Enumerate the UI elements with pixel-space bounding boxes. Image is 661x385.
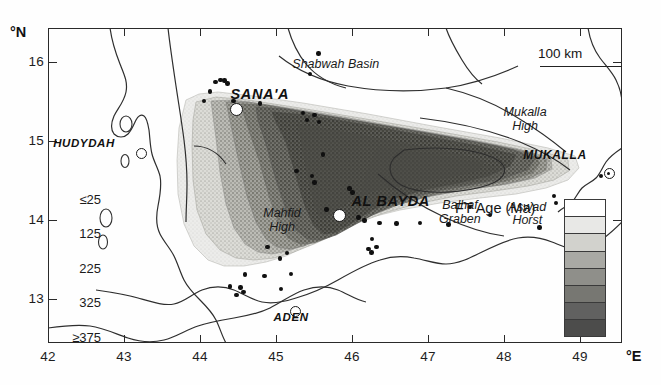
- y-tick-right-14: [613, 220, 622, 221]
- sample-point: [321, 152, 325, 156]
- feature-label-line: Shabwah Basin: [281, 58, 391, 71]
- x-tick-49: [580, 28, 581, 36]
- sample-point: [312, 180, 316, 184]
- scale-bar-label: 100 km: [538, 46, 582, 61]
- sample-point: [238, 285, 242, 289]
- x-tick-43: [124, 28, 125, 36]
- x-tick-44: [200, 28, 201, 36]
- map-frame: [48, 28, 622, 343]
- x-tick-46: [352, 28, 353, 36]
- y-tick-label-13: 13: [4, 291, 44, 306]
- sample-point: [213, 80, 217, 84]
- sample-point: [377, 221, 381, 225]
- sample-point: [552, 194, 556, 198]
- legend-tick-2: 225: [51, 261, 101, 276]
- x-tick-label-49: 49: [559, 349, 601, 364]
- x-tick-bot-42: [48, 335, 49, 343]
- figure-canvas: 16 15 14 13 42 43 44 45 46 47 48 49 °N °…: [0, 0, 661, 385]
- legend-swatch-4: [564, 268, 606, 285]
- x-tick-bot-43: [124, 335, 125, 343]
- city-label-sana-a: SANA'A: [231, 86, 290, 102]
- feature-label-line: High: [227, 221, 337, 234]
- x-axis-unit-label: °E: [626, 348, 641, 364]
- y-tick-label-15: 15: [4, 133, 44, 148]
- sample-point: [316, 51, 320, 55]
- legend-swatches: [564, 199, 606, 337]
- y-tick-right-16: [613, 62, 622, 63]
- city-label-mukalla: MUKALLA: [523, 148, 587, 162]
- x-tick-47: [428, 28, 429, 36]
- sample-point: [265, 245, 269, 249]
- legend-swatch-0: [564, 199, 606, 216]
- y-tick-14: [48, 220, 57, 221]
- legend-tick-4: ≥375: [51, 330, 101, 345]
- legend-tick-0: ≤25: [51, 192, 101, 207]
- feature-label-mukalla-high: MukallaHigh: [470, 106, 580, 133]
- sample-point: [356, 215, 360, 219]
- sample-point: [369, 250, 373, 254]
- sample-point: [208, 89, 212, 93]
- x-tick-label-46: 46: [331, 349, 373, 364]
- sample-point: [362, 218, 366, 222]
- feature-label-line: Mahfid: [227, 207, 337, 220]
- x-tick-bot-48: [504, 335, 505, 343]
- sample-point: [294, 169, 298, 173]
- legend-title: FT Age (Ma): [455, 200, 555, 216]
- sample-point: [374, 245, 378, 249]
- feature-label-shabwah-basin: Shabwah Basin: [281, 58, 391, 71]
- feature-label-line: Mukalla: [470, 106, 580, 119]
- legend-swatch-1: [564, 216, 606, 233]
- x-tick-label-44: 44: [179, 349, 221, 364]
- x-tick-label-42: 42: [27, 349, 69, 364]
- y-tick-label-16: 16: [4, 54, 44, 69]
- legend-swatch-5: [564, 285, 606, 302]
- legend-swatch-3: [564, 251, 606, 268]
- legend-tick-3: 325: [51, 295, 101, 310]
- sample-point: [599, 174, 603, 178]
- x-tick-bot-44: [200, 335, 201, 343]
- y-tick-label-14: 14: [4, 212, 44, 227]
- sample-point: [394, 221, 398, 225]
- feature-label-mahfid-high: MahfidHigh: [227, 207, 337, 234]
- x-tick-label-45: 45: [255, 349, 297, 364]
- x-tick-45: [276, 28, 277, 36]
- scale-bar-line: [540, 66, 622, 67]
- city-marker-mukalla[interactable]: [604, 168, 615, 179]
- city-label-aden: ADEN: [274, 311, 309, 323]
- legend-swatch-7: [564, 319, 606, 336]
- x-tick-bot-47: [428, 335, 429, 343]
- y-axis-unit-label: °N: [10, 24, 26, 40]
- sample-point: [278, 256, 282, 260]
- city-label-hudydah: HUDYDAH: [53, 137, 115, 149]
- city-marker-hudydah[interactable]: [136, 148, 147, 159]
- sample-point: [225, 81, 229, 85]
- sample-point: [243, 272, 247, 276]
- x-tick-label-43: 43: [103, 349, 145, 364]
- feature-label-line: High: [470, 120, 580, 133]
- legend-swatch-2: [564, 233, 606, 250]
- y-tick-16: [48, 62, 57, 63]
- x-tick-label-47: 47: [407, 349, 449, 364]
- legend-tick-1: 125: [51, 226, 101, 241]
- x-tick-48: [504, 28, 505, 36]
- x-tick-42: [48, 28, 49, 36]
- legend-swatch-6: [564, 302, 606, 319]
- x-tick-bot-46: [352, 335, 353, 343]
- sample-point: [241, 290, 245, 294]
- sample-point: [258, 101, 262, 105]
- sample-point: [312, 113, 316, 117]
- x-tick-bot-45: [276, 335, 277, 343]
- x-tick-label-48: 48: [483, 349, 525, 364]
- sample-point: [228, 284, 232, 288]
